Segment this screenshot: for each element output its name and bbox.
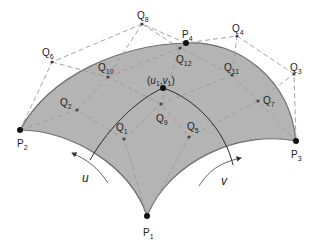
label-p3: P3	[291, 149, 302, 162]
v-arrow	[199, 158, 241, 186]
label-q4: Q4	[232, 23, 244, 36]
surface-patch	[20, 43, 296, 216]
label-u1-v1: (u1,v1)	[147, 75, 175, 87]
label-p2: P2	[17, 138, 28, 151]
label-u-direction: u	[82, 171, 89, 185]
label-q8: Q8	[137, 10, 149, 23]
label-q6: Q6	[42, 47, 54, 60]
bicubic-patch-diagram: P1 P2 P3 P4 Q1 Q2 Q3 Q4 Q5 Q6 Q7 Q8 Q9 Q…	[0, 0, 321, 246]
label-p1: P1	[143, 227, 154, 240]
label-p4: P4	[182, 29, 193, 42]
label-v-direction: v	[221, 174, 228, 188]
